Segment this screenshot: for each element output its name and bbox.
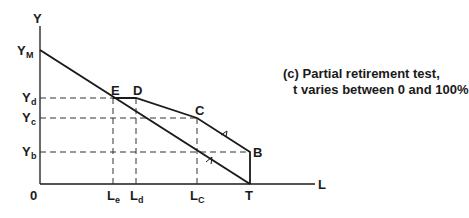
svg-text:c: c — [31, 117, 36, 127]
svg-text:M: M — [26, 50, 34, 60]
x-tick-lc: L C — [190, 188, 205, 205]
origin-label: 0 — [30, 188, 37, 203]
point-b-label: B — [253, 145, 262, 160]
svg-text:L: L — [190, 188, 198, 203]
y-tick-ym: Y M — [17, 43, 34, 60]
point-d-label: D — [133, 83, 142, 98]
x-tick-le: L e — [107, 188, 120, 205]
svg-text:L: L — [130, 188, 138, 203]
svg-text:d: d — [138, 195, 144, 205]
budget-line-ym-t — [40, 50, 250, 184]
x-tick-ld: L d — [130, 188, 144, 205]
svg-text:Y: Y — [22, 110, 31, 125]
svg-text:Y: Y — [22, 144, 31, 159]
y-tick-yc: Y c — [22, 110, 36, 127]
point-t-label: T — [245, 188, 253, 203]
svg-text:b: b — [31, 151, 37, 161]
caption-line-1: (c) Partial retirement test, — [283, 66, 469, 82]
caption-line-2: t varies between 0 and 100% — [283, 82, 469, 98]
svg-text:d: d — [31, 97, 37, 107]
svg-text:L: L — [107, 188, 115, 203]
svg-text:Y: Y — [22, 90, 31, 105]
y-axis-label: Y — [33, 11, 42, 26]
svg-text:Y: Y — [17, 43, 26, 58]
diagram-caption: (c) Partial retirement test, t varies be… — [283, 66, 469, 98]
x-axis-label: L — [318, 177, 326, 192]
point-e-label: E — [111, 83, 120, 98]
y-tick-yb: Y b — [22, 144, 37, 161]
svg-text:C: C — [198, 195, 205, 205]
svg-text:e: e — [115, 195, 120, 205]
point-c-label: C — [195, 103, 205, 118]
y-tick-yd: Y d — [22, 90, 37, 107]
